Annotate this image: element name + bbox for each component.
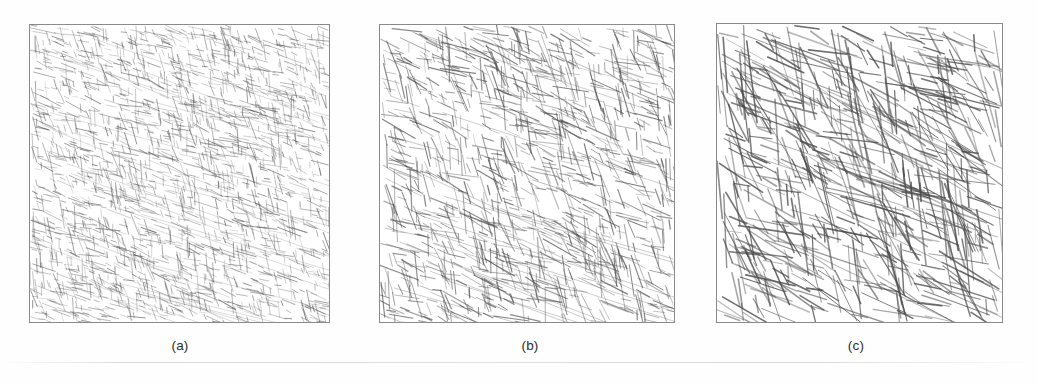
panel-c-caption: (c) xyxy=(816,338,896,354)
panel-b-caption: (b) xyxy=(490,338,570,354)
figure-root: (a) (b) (c) xyxy=(0,0,1038,384)
panel-a-caption: (a) xyxy=(140,338,220,354)
panel-c-line-field xyxy=(717,24,1002,322)
scan-line-artifact xyxy=(0,362,1038,363)
panel-a-frame xyxy=(29,24,330,323)
panel-c-frame xyxy=(716,23,1003,323)
panel-b-line-field xyxy=(380,25,674,322)
panel-b-frame xyxy=(379,24,675,323)
panel-a-line-field xyxy=(30,25,329,322)
